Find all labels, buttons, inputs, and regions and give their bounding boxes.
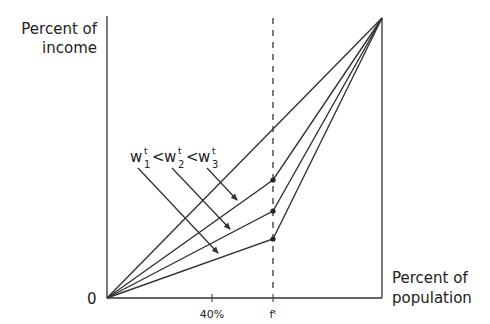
y-axis-label-line2: income: [42, 39, 97, 57]
x-axis-label-line1: Percent of: [392, 269, 468, 287]
kink-point-w2: [270, 208, 275, 213]
less-than-2: <: [186, 148, 199, 166]
w3-superscript: t: [212, 146, 216, 156]
arrow-w3: [207, 168, 237, 200]
tick-label-40pct: 40%: [200, 308, 224, 321]
w1-subscript: 1: [144, 159, 150, 170]
y-axis-label-line1: Percent of: [21, 20, 97, 38]
annotation-w-ordering: w t 1 < w t 2 < w t 3: [130, 146, 218, 170]
w1-symbol: w: [130, 148, 142, 166]
lorenz-diagram: Percent of income Percent of population …: [0, 0, 490, 324]
w3-symbol: w: [198, 148, 210, 166]
w3-subscript: 3: [212, 159, 218, 170]
w1-superscript: t: [144, 146, 148, 156]
tick-label-ft: fᵗ: [269, 308, 276, 321]
less-than-1: <: [152, 148, 165, 166]
w2-subscript: 2: [178, 159, 184, 170]
w2-superscript: t: [178, 146, 182, 156]
line-of-equality: [107, 18, 382, 298]
kink-point-w3: [270, 177, 275, 182]
kink-point-w1: [270, 236, 275, 241]
arrow-w1: [138, 168, 218, 253]
arrow-w2: [172, 168, 230, 229]
w2-symbol: w: [164, 148, 176, 166]
origin-label: 0: [87, 290, 97, 308]
x-axis-label-line2: population: [392, 289, 472, 307]
